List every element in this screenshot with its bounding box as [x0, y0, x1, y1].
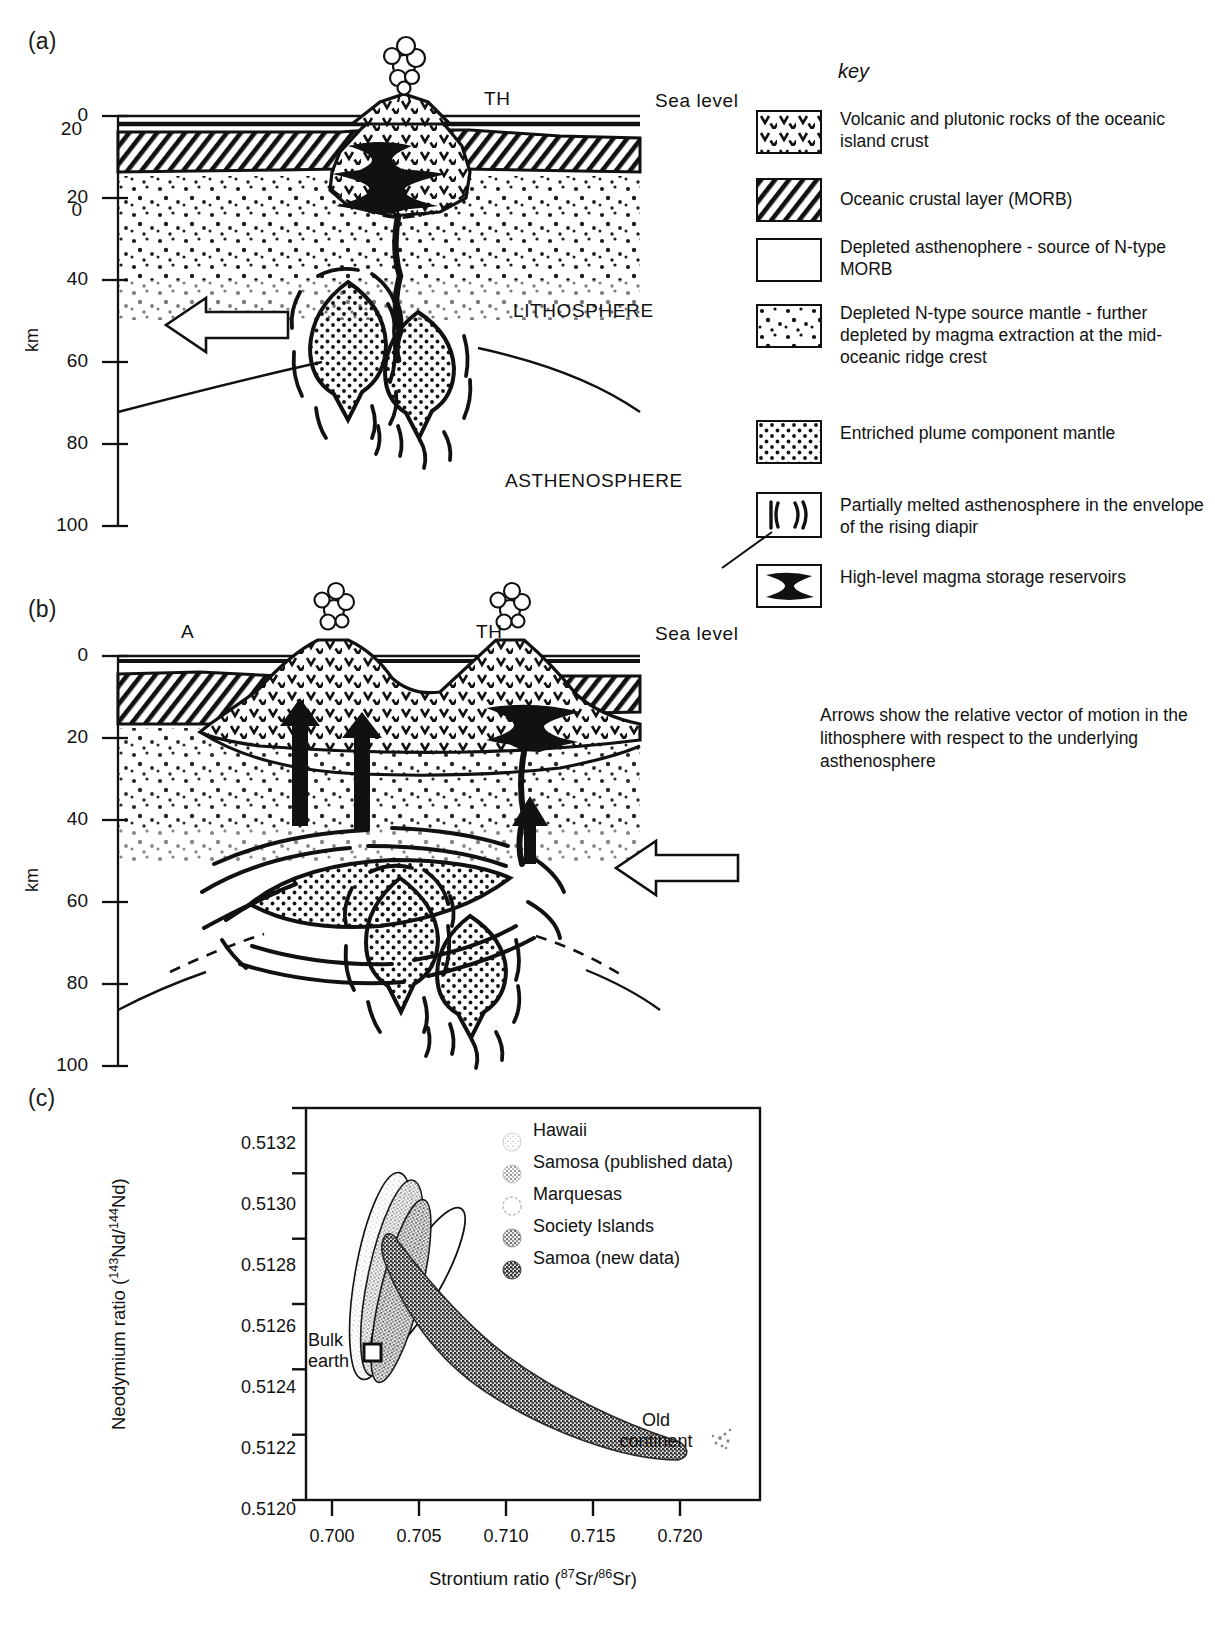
key-item-label: Depleted N-type source mantle - further … — [840, 302, 1212, 368]
legend-swatch-marquesas — [503, 1197, 521, 1215]
x-title-sup2: 86 — [598, 1567, 612, 1581]
panel-b-axis-title: km — [22, 868, 43, 892]
key-item-partial-melt: Partially melted asthenosphere in the en… — [756, 490, 1211, 562]
key-item-label: Oceanic crustal layer (MORB) — [840, 188, 1206, 210]
chart-ytick-3: 0.5126 — [218, 1316, 296, 1337]
dense-dot-swatch — [756, 420, 822, 464]
panel-a-depth-40: 40 — [18, 268, 88, 290]
bulk-earth-annotation: Bulk earth — [308, 1330, 388, 1372]
chart-ytick-1: 0.5122 — [218, 1438, 296, 1459]
y-title-sup2: 144 — [107, 1208, 121, 1229]
key-item-volcanic-rocks: Volcanic and plutonic rocks of the ocean… — [756, 108, 1211, 176]
panel-b-depth-80: 80 — [18, 972, 88, 994]
panel-b-depth-100: 100 — [18, 1054, 88, 1076]
key-list: Volcanic and plutonic rocks of the ocean… — [756, 108, 1211, 632]
hatch-fill-swatch — [756, 178, 822, 222]
panel-a-depth-80: 80 — [18, 432, 88, 454]
chart-xtick-2: 0.710 — [457, 1526, 555, 1547]
panel-a-depth-0: 0 — [18, 104, 88, 126]
x-title-mid: Sr/ — [575, 1568, 599, 1589]
chart-xtick-3: 0.715 — [544, 1526, 642, 1547]
panel-a-sea-level-label: Sea level — [655, 90, 739, 112]
legend-label-society-islands: Society Islands — [533, 1216, 654, 1237]
chart-ytick-4: 0.5128 — [218, 1255, 296, 1276]
key-item-label: Entriched plume component mantle — [840, 422, 1206, 444]
panel-b-motion-arrow-icon — [610, 838, 740, 898]
panel-a-lithosphere-label: LITHOSPHERE — [513, 300, 654, 322]
legend-swatch-hawaii — [503, 1133, 521, 1151]
key-arrows-note: Arrows show the relative vector of motio… — [820, 704, 1210, 773]
x-title-post: Sr) — [612, 1568, 637, 1589]
panel-a-depth-60: 60 — [18, 350, 88, 372]
panel-b-sea-level-label: Sea level — [655, 623, 739, 645]
y-title-mid: Nd/ — [108, 1229, 129, 1258]
key-item-oceanic-crust: Oceanic crustal layer (MORB) — [756, 176, 1211, 236]
legend-swatch-society-islands — [503, 1229, 521, 1247]
y-title-pre: Neodymium ratio ( — [108, 1279, 129, 1430]
legend-swatch-samoa-new — [503, 1261, 521, 1279]
chart-x-axis-title: Strontium ratio (87Sr/86Sr) — [306, 1568, 760, 1590]
blank-fill-swatch — [756, 238, 822, 282]
x-title-pre: Strontium ratio ( — [429, 1568, 561, 1589]
panel-b-depth-60: 60 — [18, 890, 88, 912]
key-item-label: Volcanic and plutonic rocks of the ocean… — [840, 108, 1206, 152]
old-continent-marker — [712, 1429, 732, 1450]
chart-y-axis-title: Neodymium ratio (143Nd/144Nd) — [108, 1178, 130, 1430]
chevron-fill-swatch — [756, 110, 822, 154]
panel-a-depth-100: 100 — [18, 514, 88, 536]
chart-ytick-0: 0.5120 — [218, 1499, 296, 1520]
legend-label-marquesas: Marquesas — [533, 1184, 622, 1205]
panel-b-label: (b) — [28, 596, 57, 623]
key-item-magma-reservoir: High-level magma storage reservoirs — [756, 562, 1211, 632]
key-item-label: Partially melted asthenosphere in the en… — [840, 494, 1212, 538]
panel-b-depth-40: 40 — [18, 808, 88, 830]
magma-reservoir-swatch — [756, 564, 822, 608]
chart-xtick-4: 0.720 — [631, 1526, 729, 1547]
key-title: key — [838, 60, 869, 83]
sparse-dot-swatch — [756, 304, 822, 348]
x-title-sup1: 87 — [561, 1567, 575, 1581]
chart-xtick-0: 0.700 — [283, 1526, 381, 1547]
chart-ytick-2: 0.5124 — [218, 1377, 296, 1398]
key-leader-line — [720, 530, 780, 570]
legend-label-hawaii: Hawaii — [533, 1120, 587, 1141]
legend-swatch-samosa — [503, 1165, 521, 1183]
legend-label-samosa: Samosa (published data) — [533, 1152, 733, 1173]
chart-legend — [503, 1133, 521, 1279]
key-item-depleted-n-type-mantle: Depleted N-type source mantle - further … — [756, 302, 1211, 418]
y-title-sup1: 143 — [107, 1258, 121, 1279]
key-item-enriched-plume: Entriched plume component mantle — [756, 418, 1211, 490]
panel-a-label: (a) — [28, 28, 57, 55]
panel-b-depth-0: 0 — [18, 644, 88, 666]
panel-b-a-label: A — [181, 621, 194, 643]
panel-a-motion-arrow-icon — [160, 295, 290, 355]
y-title-post: Nd) — [108, 1178, 129, 1208]
panel-b-th-label: TH — [476, 621, 503, 643]
panel-a-th-label: TH — [484, 88, 511, 110]
figure-page: (a) 0 20 — [0, 0, 1215, 1632]
panel-a-depth-20: 20 — [18, 186, 88, 208]
chart-ytick-6: 0.5132 — [218, 1133, 296, 1154]
panel-b-depth-20: 20 — [18, 726, 88, 748]
panel-c-label: (c) — [28, 1085, 55, 1112]
chart-xtick-1: 0.705 — [370, 1526, 468, 1547]
key-item-label: High-level magma storage reservoirs — [840, 566, 1206, 588]
key-item-depleted-asthenophere: Depleted asthenophere - source of N-type… — [756, 236, 1211, 302]
chart-ytick-5: 0.5130 — [218, 1194, 296, 1215]
panel-a-asthenosphere-label: ASTHENOSPHERE — [505, 470, 683, 492]
old-continent-annotation: Old continent — [610, 1410, 702, 1452]
legend-label-samoa-new: Samoa (new data) — [533, 1248, 680, 1269]
key-item-label: Depleted asthenophere - source of N-type… — [840, 236, 1206, 280]
panel-a-axis-title: km — [22, 328, 43, 352]
